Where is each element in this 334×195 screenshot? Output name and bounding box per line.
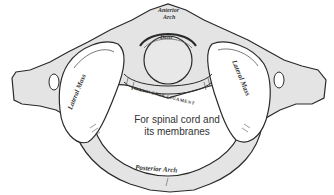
dens: [144, 36, 192, 84]
right-transverse-foramen: [274, 72, 284, 88]
label-foramen: For spinal cord and its membranes: [132, 114, 222, 138]
label-anterior-arch-1: Anterior: [158, 7, 179, 13]
label-anterior-arch-2: Arch: [163, 14, 175, 20]
label-dens: Dens: [160, 34, 173, 40]
atlas-vertebra-diagram: Anterior Arch Dens Lateral Mass Lateral …: [0, 0, 334, 195]
label-foramen-line1: For spinal cord and: [132, 114, 222, 126]
left-transverse-foramen: [49, 74, 59, 90]
label-foramen-line2: its membranes: [132, 126, 222, 138]
